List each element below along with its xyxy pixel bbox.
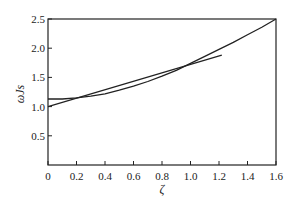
plot-frame — [48, 19, 276, 165]
y-tick-label: 2.5 — [31, 13, 45, 25]
x-tick-label: 0.6 — [127, 170, 141, 182]
x-tick-label: 1.6 — [269, 170, 283, 182]
data-series — [48, 19, 276, 107]
x-tick-label: 1.2 — [212, 170, 226, 182]
y-tick-label: 0.5 — [31, 130, 45, 142]
series-line-linear-fit — [48, 55, 222, 106]
x-tick-label: 0 — [45, 170, 51, 182]
series-line-curve — [48, 19, 276, 99]
x-axis-label: ζ — [160, 182, 166, 196]
x-axis-ticks: 00.20.40.60.81.01.21.41.6 — [45, 161, 283, 182]
x-tick-label: 0.4 — [98, 170, 112, 182]
x-tick-label: 0.2 — [70, 170, 84, 182]
x-tick-label: 0.8 — [155, 170, 169, 182]
chart: 00.20.40.60.81.01.21.41.6 0.51.01.52.02.… — [0, 0, 300, 208]
y-axis-label: ωJs — [13, 84, 27, 103]
x-tick-label: 1.0 — [184, 170, 198, 182]
y-tick-label: 1.5 — [31, 71, 45, 83]
y-tick-label: 1.0 — [31, 101, 45, 113]
y-tick-label: 2.0 — [31, 42, 45, 54]
x-tick-label: 1.4 — [241, 170, 255, 182]
y-axis-ticks: 0.51.01.52.02.5 — [31, 13, 52, 142]
